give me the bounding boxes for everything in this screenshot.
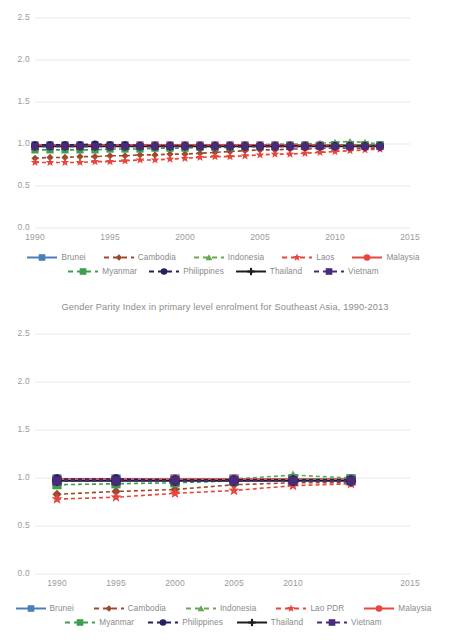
top-chart: 0.00.51.01.52.02.51990199520002005201020…	[0, 0, 449, 248]
y-axis-tick-label: 2.0	[0, 55, 30, 64]
legend-swatch-lao-pdr-icon	[276, 603, 306, 613]
legend-item-brunei[interactable]: Brunei	[27, 252, 87, 262]
legend-swatch-vietnam-icon	[314, 266, 344, 276]
legend-item-brunei[interactable]: Brunei	[16, 603, 76, 613]
y-axis-tick-label: 2.5	[0, 13, 30, 22]
top-plot-area	[35, 18, 410, 228]
legend-row-1: BruneiCambodiaIndonesiaLaosMalaysia	[0, 250, 449, 264]
legend-swatch-philippines-icon	[149, 266, 179, 276]
x-axis-tick-label: 2000	[150, 579, 200, 588]
legend-row-2: MyanmarPhilippinesThailandVietnam	[0, 615, 449, 629]
y-axis-tick-label: 2.0	[0, 377, 30, 386]
x-axis-tick-label: 2000	[160, 233, 210, 242]
legend-item-vietnam[interactable]: Vietnam	[317, 617, 384, 627]
legend-label: Indonesia	[228, 253, 264, 262]
top-chart-legend: BruneiCambodiaIndonesiaLaosMalaysia Myan…	[0, 250, 449, 278]
y-axis-tick-label: 2.5	[0, 329, 30, 338]
legend-item-cambodia[interactable]: Cambodia	[94, 603, 168, 613]
legend-item-malaysia[interactable]: Malaysia	[352, 252, 421, 262]
legend-item-lao-pdr[interactable]: Lao PDR	[276, 603, 346, 613]
legend-item-indonesia[interactable]: Indonesia	[194, 252, 266, 262]
legend-row-1: BruneiCambodiaIndonesiaLao PDRMalaysia	[0, 601, 449, 615]
legend-swatch-vietnam-icon	[317, 617, 347, 627]
legend-label: Philippines	[183, 267, 224, 276]
legend-label: Indonesia	[220, 604, 256, 613]
x-axis-tick-label: 2005	[209, 579, 259, 588]
y-axis-tick-label: 0.0	[0, 569, 30, 578]
legend-label: Myanmar	[102, 267, 137, 276]
legend-label: Laos	[316, 253, 334, 262]
legend-item-philippines[interactable]: Philippines	[149, 266, 226, 276]
y-axis-tick-label: 0.0	[0, 223, 30, 232]
legend-swatch-cambodia-icon	[104, 252, 134, 262]
legend-label: Vietnam	[348, 267, 379, 276]
x-axis-tick-label: 1990	[10, 233, 60, 242]
legend-label: Myanmar	[99, 618, 134, 627]
x-axis-tick-label: 2010	[268, 579, 318, 588]
y-axis-tick-label: 1.5	[0, 97, 30, 106]
legend-label: Philippines	[182, 618, 223, 627]
legend-swatch-myanmar-icon	[65, 617, 95, 627]
legend-item-thailand[interactable]: Thailand	[237, 617, 305, 627]
x-axis-tick-label: 1995	[85, 233, 135, 242]
legend-item-malaysia[interactable]: Malaysia	[364, 603, 433, 613]
legend-swatch-laos-icon	[282, 252, 312, 262]
x-axis-tick-label: 2015	[385, 233, 435, 242]
legend-label: Cambodia	[138, 253, 176, 262]
legend-item-vietnam[interactable]: Vietnam	[314, 266, 381, 276]
bottom-chart: Gender Parity Index in primary level enr…	[0, 296, 449, 596]
bottom-plot-area	[35, 334, 410, 574]
legend-label: Vietnam	[351, 618, 382, 627]
legend-swatch-philippines-icon	[148, 617, 178, 627]
legend-swatch-malaysia-icon	[352, 252, 382, 262]
legend-swatch-indonesia-icon	[186, 603, 216, 613]
legend-item-cambodia[interactable]: Cambodia	[104, 252, 178, 262]
legend-label: Brunei	[61, 253, 85, 262]
x-axis-tick-label: 1995	[91, 579, 141, 588]
legend-swatch-brunei-icon	[27, 252, 57, 262]
legend-label: Brunei	[50, 604, 74, 613]
y-axis-tick-label: 0.5	[0, 181, 30, 190]
legend-item-myanmar[interactable]: Myanmar	[68, 266, 139, 276]
plot-bottom-svg	[35, 334, 410, 574]
plot-top-svg	[35, 18, 410, 228]
chart-page: 0.00.51.01.52.02.51990199520002005201020…	[0, 0, 449, 642]
legend-item-philippines[interactable]: Philippines	[148, 617, 225, 627]
x-axis-tick-label: 1990	[32, 579, 82, 588]
x-axis-tick-label: 2010	[310, 233, 360, 242]
bottom-chart-legend: BruneiCambodiaIndonesiaLao PDRMalaysia M…	[0, 601, 449, 629]
y-axis-tick-label: 0.5	[0, 521, 30, 530]
legend-label: Thailand	[270, 267, 302, 276]
y-axis-tick-label: 1.0	[0, 139, 30, 148]
series-line-laos	[35, 149, 380, 162]
legend-swatch-myanmar-icon	[68, 266, 98, 276]
legend-item-laos[interactable]: Laos	[282, 252, 336, 262]
y-axis-tick-label: 1.0	[0, 473, 30, 482]
legend-swatch-thailand-icon	[236, 266, 266, 276]
y-axis-tick-label: 1.5	[0, 425, 30, 434]
legend-item-thailand[interactable]: Thailand	[236, 266, 304, 276]
legend-swatch-thailand-icon	[237, 617, 267, 627]
legend-swatch-cambodia-icon	[94, 603, 124, 613]
legend-label: Thailand	[271, 618, 303, 627]
legend-item-myanmar[interactable]: Myanmar	[65, 617, 136, 627]
legend-swatch-indonesia-icon	[194, 252, 224, 262]
legend-row-2: MyanmarPhilippinesThailandVietnam	[0, 264, 449, 278]
legend-label: Malaysia	[398, 604, 431, 613]
legend-item-indonesia[interactable]: Indonesia	[186, 603, 258, 613]
legend-swatch-brunei-icon	[16, 603, 46, 613]
bottom-chart-title: Gender Parity Index in primary level enr…	[40, 300, 410, 314]
legend-label: Malaysia	[386, 253, 419, 262]
x-axis-tick-label: 2005	[235, 233, 285, 242]
x-axis-tick-label: 2015	[385, 579, 435, 588]
legend-swatch-malaysia-icon	[364, 603, 394, 613]
legend-label: Cambodia	[128, 604, 166, 613]
legend-label: Lao PDR	[310, 604, 344, 613]
